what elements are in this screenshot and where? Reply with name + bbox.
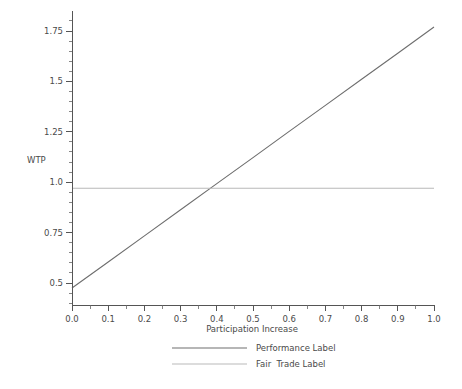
- x-tick-label: 0.7: [319, 314, 333, 324]
- x-tick-label: 0.4: [210, 314, 224, 324]
- x-tick-label: 0.9: [391, 314, 405, 324]
- x-tick-label: 0.6: [282, 314, 296, 324]
- x-tick-label: 0.0: [65, 314, 79, 324]
- y-tick-label: 1.0: [49, 177, 63, 187]
- x-tick-label: 0.5: [246, 314, 260, 324]
- x-tick-label: 0.3: [174, 314, 188, 324]
- legend-label: Fair Trade Label: [256, 359, 325, 369]
- x-axis-title: Participation Increase: [206, 324, 298, 334]
- y-tick-label: 1.75: [44, 26, 63, 36]
- y-tick-label: 1.25: [44, 127, 63, 137]
- chart-container: 0.50.751.01.251.51.75 0.00.10.20.30.40.5…: [0, 0, 462, 389]
- y-tick-label: 0.75: [44, 228, 63, 238]
- legend-label: Performance Label: [256, 343, 336, 353]
- x-tick-label: 0.1: [101, 314, 115, 324]
- y-axis-title: WTP: [27, 155, 46, 165]
- x-tick-label: 0.2: [138, 314, 152, 324]
- y-tick-label: 0.5: [49, 278, 63, 288]
- x-tick-label: 1.0: [427, 314, 441, 324]
- x-tick-label: 0.8: [355, 314, 369, 324]
- y-tick-label: 1.5: [49, 76, 63, 86]
- wtp-line-chart: 0.50.751.01.251.51.75 0.00.10.20.30.40.5…: [0, 0, 462, 389]
